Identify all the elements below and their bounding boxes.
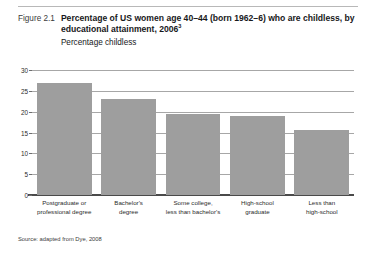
bar[interactable] <box>166 114 221 195</box>
y-axis-tick-label: 5 <box>24 171 28 178</box>
y-axis-tick-label: 10 <box>21 150 28 157</box>
x-axis-label: Less thanhigh-school <box>290 199 354 216</box>
top-divider-rule <box>18 6 358 7</box>
figure-title-footnote-marker: 3 <box>178 24 181 30</box>
bar-slot <box>32 70 96 195</box>
figure-container: Figure 2.1 Percentage of US women age 40… <box>0 0 376 267</box>
figure-heading: Figure 2.1 Percentage of US women age 40… <box>18 13 360 49</box>
x-axis-label-line: Some college, <box>162 199 224 208</box>
x-axis-label-line: Postgraduate or <box>33 199 95 208</box>
bar-slot <box>96 70 160 195</box>
bar-slot <box>161 70 225 195</box>
y-axis-tick-label: 25 <box>21 87 28 94</box>
y-axis-tick-label: 30 <box>21 67 28 74</box>
figure-title: Percentage of US women age 40–44 (born 1… <box>61 13 360 36</box>
bar[interactable] <box>101 99 156 195</box>
x-axis-label-line: Bachelor's <box>97 199 159 208</box>
bar[interactable] <box>294 130 349 195</box>
x-axis-label-line: degree <box>97 208 159 217</box>
x-axis-label: Some college,less than bachelor's <box>161 199 225 216</box>
source-note: Source: adapted from Dye, 2008 <box>18 236 102 242</box>
y-axis-tick-label: 0 <box>24 192 28 199</box>
x-axis-label-line: High-school <box>226 199 288 208</box>
figure-number: Figure 2.1 <box>18 13 61 24</box>
x-axis-label-line: Less than <box>291 199 353 208</box>
x-axis-label: Postgraduate orprofessional degree <box>32 199 96 216</box>
chart-plot-area: 051015202530 <box>32 70 354 195</box>
figure-heading-text: Percentage of US women age 40–44 (born 1… <box>61 13 360 49</box>
y-axis-tick-mark <box>29 195 32 196</box>
bar-slot <box>225 70 289 195</box>
x-axis-label: Bachelor'sdegree <box>96 199 160 216</box>
x-axis-label-line: graduate <box>226 208 288 217</box>
x-axis-label-line: high-school <box>291 208 353 217</box>
x-axis-label-line: less than bachelor's <box>162 208 224 217</box>
y-axis-tick-label: 15 <box>21 129 28 136</box>
y-axis-tick-label: 20 <box>21 108 28 115</box>
x-axis-labels: Postgraduate orprofessional degreeBachel… <box>32 199 354 216</box>
bar[interactable] <box>37 83 92 196</box>
bar-slot <box>290 70 354 195</box>
bar-series <box>32 70 354 195</box>
x-axis-label-line: professional degree <box>33 208 95 217</box>
bar[interactable] <box>230 116 285 195</box>
figure-subtitle: Percentage childless <box>61 37 360 49</box>
figure-title-text: Percentage of US women age 40–44 (born 1… <box>61 13 355 34</box>
x-axis-label: High-schoolgraduate <box>225 199 289 216</box>
